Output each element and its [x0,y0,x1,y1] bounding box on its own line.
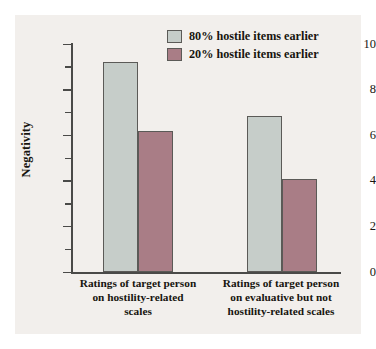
legend-label-1: 20% hostile items earlier [189,47,319,62]
x-category-label-1-line-1: on evaluative but not [205,291,357,305]
x-category-label-0-line-1: on hostility-related [62,291,214,305]
bar-group0-series0 [103,62,138,272]
y-tick-minor-7 [65,112,72,113]
y-tick-minor-1 [65,249,72,250]
legend-swatch-icon-1 [167,48,182,61]
y-tick-minor-9 [65,66,72,67]
y-tick-label-2: 2 [318,220,376,233]
chart-legend: 80% hostile items earlier 20% hostile it… [167,28,319,64]
y-tick-major-4 [63,180,72,181]
legend-label-0: 80% hostile items earlier [189,29,319,44]
y-tick-major-8 [63,89,72,90]
x-category-label-1-line-2: hostility-related scales [205,305,357,319]
y-tick-major-10 [63,44,72,45]
plot-area: Negativity 10 8 6 4 2 0 Ratings of targe… [0,0,376,349]
x-category-label-0-line-0: Ratings of target person [62,277,214,291]
y-tick-minor-3 [65,203,72,204]
y-axis-title: Negativity [19,105,34,195]
y-tick-major-6 [63,135,72,136]
legend-item-0: 80% hostile items earlier [167,28,319,45]
y-tick-major-0 [63,272,72,273]
bar-group1-series1 [282,179,317,272]
x-category-label-1-line-0: Ratings of target person [205,277,357,291]
bar-group0-series1 [138,131,173,272]
x-category-label-1: Ratings of target person on evaluative b… [205,277,357,318]
y-tick-minor-5 [65,158,72,159]
legend-item-1: 20% hostile items earlier [167,46,319,63]
y-tick-label-8: 8 [318,83,376,96]
y-tick-label-6: 6 [318,129,376,142]
y-tick-label-10: 10 [318,38,376,51]
x-category-label-0-line-2: scales [62,305,214,319]
bar-chart-figure: Negativity 10 8 6 4 2 0 Ratings of targe… [0,0,376,349]
y-tick-major-2 [63,226,72,227]
legend-swatch-icon-0 [167,30,182,43]
y-tick-label-4: 4 [318,174,376,187]
bar-group1-series0 [247,116,282,272]
x-axis-line [71,272,341,274]
x-category-label-0: Ratings of target person on hostility-re… [62,277,214,318]
